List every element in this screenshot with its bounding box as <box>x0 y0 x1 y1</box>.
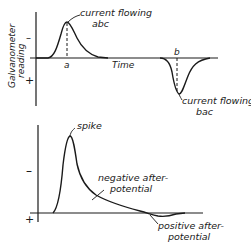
point-a-label: a <box>64 60 70 70</box>
peak-label-line2: abc <box>92 18 110 29</box>
positive-label-line2: potential <box>167 231 211 242</box>
negative-label-line1: negative after- <box>98 172 169 183</box>
bottom-graph: – + spike negative after- potential posi… <box>25 120 224 242</box>
peak-label-line1: current flowing <box>80 7 152 18</box>
trough-label-line2: bac <box>196 106 214 117</box>
top-plus-sign: + <box>25 74 34 87</box>
negative-label-line2: potential <box>109 183 153 194</box>
diagram-canvas: Galvanometer reading – + a Time b curren… <box>0 0 251 246</box>
top-minus-sign: – <box>26 32 31 43</box>
y-axis-label-line2: reading <box>16 43 26 78</box>
time-axis-label: Time <box>112 60 135 70</box>
point-b-label: b <box>174 47 180 57</box>
peak-leader-line <box>68 15 80 22</box>
spike-leader-line <box>70 128 75 136</box>
positive-label-line1: positive after- <box>157 220 224 231</box>
spike-label: spike <box>77 120 102 131</box>
trough-curve <box>160 58 210 94</box>
bottom-plus-sign: + <box>25 213 34 226</box>
trough-label-line1: current flowing <box>182 95 251 106</box>
bottom-minus-sign: – <box>26 164 32 178</box>
top-graph: Galvanometer reading – + a Time b curren… <box>7 7 251 117</box>
